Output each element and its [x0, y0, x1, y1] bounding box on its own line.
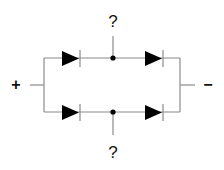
top-unknown-label: ?: [108, 12, 117, 31]
diode-triangle-icon: [145, 105, 162, 120]
diode-d1: [62, 50, 80, 67]
diode-bridge-circuit: + − ? ?: [0, 0, 224, 170]
wires: [30, 36, 195, 135]
diode-d3: [62, 104, 80, 121]
diode-triangle-icon: [145, 51, 162, 66]
top-junction-dot: [110, 55, 115, 60]
positive-terminal-label: +: [11, 76, 20, 93]
diode-d4: [145, 104, 163, 121]
negative-terminal-label: −: [203, 76, 212, 93]
bottom-junction-dot: [110, 109, 115, 114]
bottom-unknown-label: ?: [108, 143, 117, 162]
diode-d2: [145, 50, 163, 67]
diode-triangle-icon: [62, 51, 79, 66]
diode-triangle-icon: [62, 105, 79, 120]
